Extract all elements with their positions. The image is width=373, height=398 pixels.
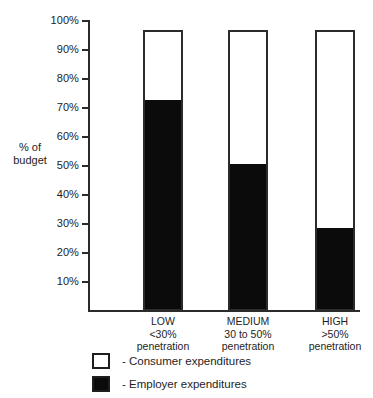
chart-plot-area: % of budget 100%90%80%70%60%50%40%30%20%… [0,0,373,330]
y-axis-tick-label: 90% [19,44,79,55]
y-axis-tick-label: 40% [19,189,79,200]
y-axis-tick [82,165,89,167]
category-label-line: >50% [280,328,373,341]
y-axis-tick [82,107,89,109]
y-axis-tick-label: 10% [19,276,79,287]
y-axis-tick-label: 50% [19,160,79,171]
y-axis-tick-label: 60% [19,131,79,142]
y-axis-tick [82,281,89,283]
y-axis-tick [82,49,89,51]
chart-legend: - Consumer expenditures- Employer expend… [0,352,373,398]
y-axis-tick-label: 20% [19,247,79,258]
y-axis-tick-label: 80% [19,73,79,84]
category-label-line: penetration [280,340,373,353]
y-axis-title-line-1: % of [2,141,58,154]
y-axis-tick [82,136,89,138]
y-axis-tick [82,194,89,196]
x-axis-category-label: HIGH>50%penetration [280,315,373,353]
stacked-bar [228,30,268,311]
legend-label: - Employer expenditures [122,377,247,391]
stacked-bar [143,30,183,311]
legend-label: - Consumer expenditures [122,354,251,368]
y-axis-tick-label: 30% [19,218,79,229]
bar-segment-employer [317,228,353,309]
y-axis-tick-label: 100% [19,15,79,26]
bar-segment-employer [145,100,181,309]
y-axis-tick-label: 70% [19,102,79,113]
y-axis-tick [82,223,89,225]
bar-segment-employer [230,164,266,309]
category-label-line: HIGH [280,315,373,328]
y-axis-tick [82,20,89,22]
legend-swatch-open-icon [92,353,110,369]
legend-swatch-solid-icon [92,376,110,392]
y-axis-tick [82,78,89,80]
y-axis-tick [82,252,89,254]
stacked-bar [315,30,355,311]
